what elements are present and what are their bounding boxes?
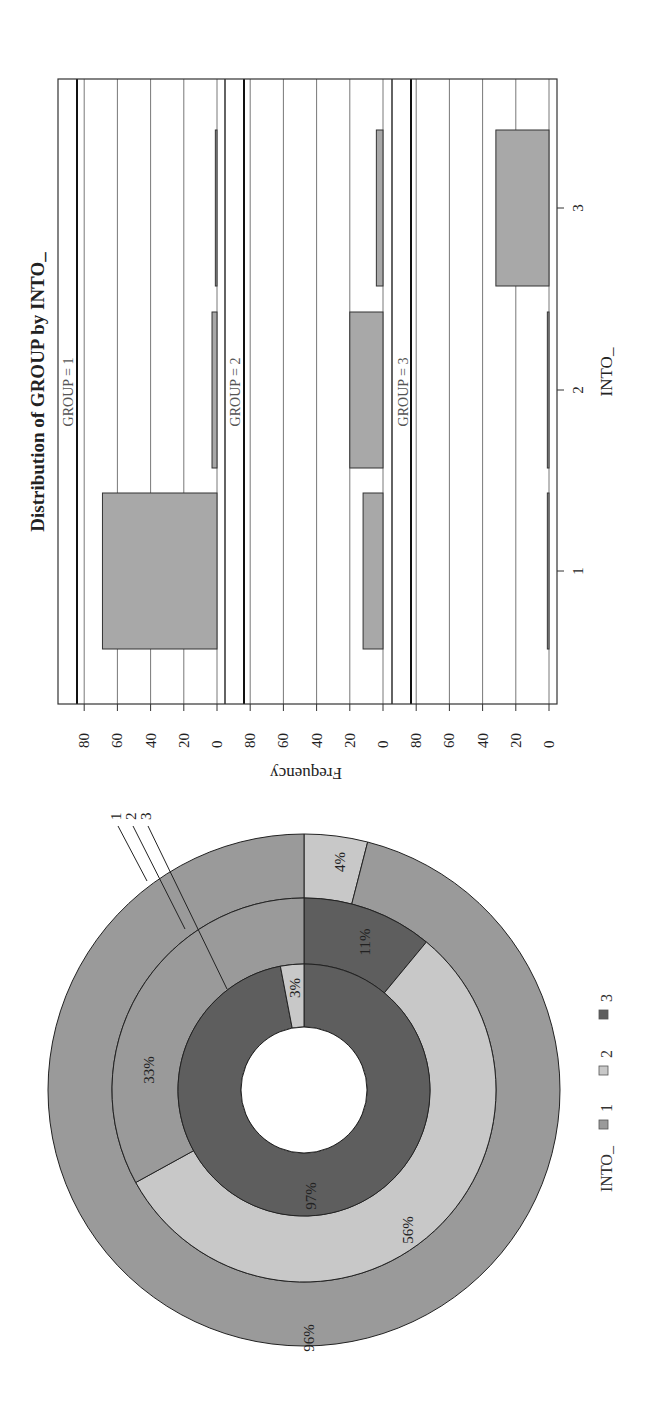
frequency-tick-label: 60 — [441, 733, 457, 748]
ring-label-2: 2 — [123, 813, 139, 821]
legend-swatch-3 — [599, 1010, 608, 1019]
frequency-tick-label: 80 — [408, 733, 424, 748]
frequency-tick-label: 80 — [242, 733, 258, 748]
into-tick-label: 1 — [570, 567, 586, 575]
strip-label-group-1: GROUP = 1 — [61, 358, 76, 427]
bar — [215, 130, 217, 286]
into-tick-label: 2 — [570, 386, 586, 394]
frequency-axis-label: Frequency — [270, 764, 342, 783]
bar-chart-panel: Distribution of GROUP by INTO_ GROUP = 1… — [27, 79, 616, 783]
frequency-tick-label: 20 — [176, 733, 192, 748]
strip-label-group-3: GROUP = 3 — [396, 358, 411, 427]
pct-outer-into2: 4% — [332, 852, 348, 872]
legend-title: INTO_ — [598, 1145, 615, 1192]
pct-outer-into1: 96% — [301, 1324, 317, 1352]
frequency-tick-label: 60 — [109, 733, 125, 748]
legend-label-3: 3 — [598, 994, 615, 1002]
pct-middle-into3: 11% — [357, 929, 373, 956]
frequency-tick-label: 20 — [342, 733, 358, 748]
bar — [547, 493, 549, 649]
legend-label-2: 2 — [598, 1050, 615, 1058]
frequency-tick-label: 40 — [143, 733, 159, 748]
legend-label-1: 1 — [598, 1104, 615, 1112]
ring-label-3: 3 — [138, 813, 154, 821]
frequency-tick-label: 0 — [375, 741, 391, 749]
legend-swatch-1 — [599, 1120, 608, 1129]
donut-hole — [241, 1027, 367, 1153]
into-tick-label: 3 — [570, 204, 586, 212]
pct-middle-into2: 56% — [400, 1216, 416, 1244]
pct-middle-into1: 33% — [141, 1056, 157, 1084]
frequency-axis-ticks: 020406080020406080020406080 — [76, 704, 557, 748]
frequency-tick-label: 0 — [541, 741, 557, 749]
ring-label-1: 1 — [108, 813, 124, 821]
frequency-tick-label: 40 — [309, 733, 325, 748]
donut-rings — [48, 834, 560, 1346]
bar — [102, 493, 217, 649]
frequency-tick-label: 0 — [209, 741, 225, 749]
bar-series — [102, 130, 549, 649]
frequency-tick-label: 60 — [275, 733, 291, 748]
bar-chart-title: Distribution of GROUP by INTO_ — [27, 252, 48, 532]
frequency-tick-label: 20 — [508, 733, 524, 748]
pct-inner-into2: 3% — [287, 978, 303, 998]
pct-inner-into3: 97% — [303, 1182, 319, 1210]
bar — [547, 312, 549, 468]
strip-label-group-2: GROUP = 2 — [228, 358, 243, 427]
donut-legend: INTO_ 1 2 3 — [598, 994, 615, 1192]
bar — [212, 312, 217, 468]
figure: Distribution of GROUP by INTO_ GROUP = 1… — [0, 0, 648, 1424]
bar — [376, 130, 383, 286]
into-axis-ticks: 123 — [557, 204, 586, 575]
donut-chart-panel: 1 2 3 96% 4% 33% 56% 11% 3% 97% INTO_ 1 … — [48, 813, 615, 1352]
legend-swatch-2 — [599, 1066, 608, 1075]
bar — [350, 312, 383, 468]
frequency-tick-label: 80 — [76, 733, 92, 748]
chart-canvas: Distribution of GROUP by INTO_ GROUP = 1… — [0, 0, 648, 1424]
bar — [496, 130, 549, 286]
frequency-tick-label: 40 — [475, 733, 491, 748]
bar — [363, 493, 383, 649]
into-axis-label: INTO_ — [597, 347, 616, 396]
